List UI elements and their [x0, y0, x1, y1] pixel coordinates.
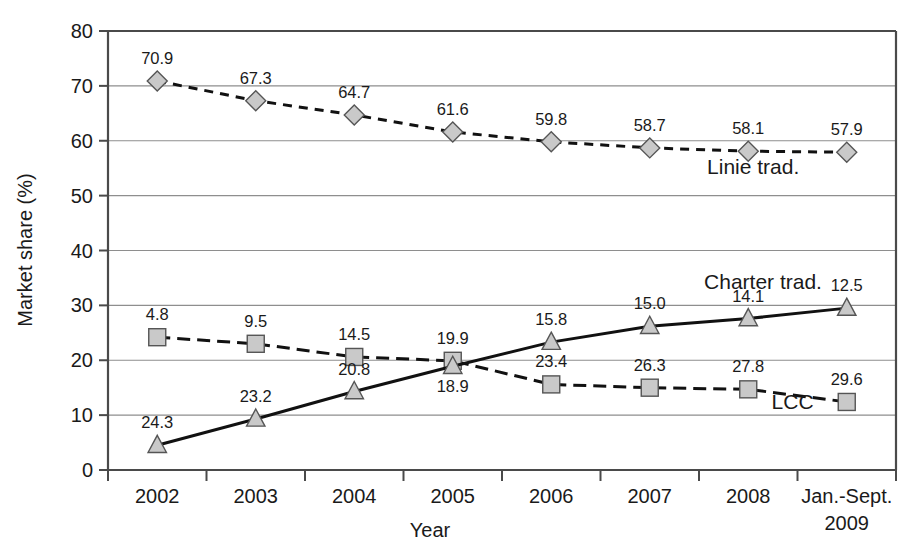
- series-annotation: Charter trad.: [704, 270, 822, 293]
- x-tick-label-line2: 2009: [825, 512, 870, 534]
- data-point-label: 4.8: [146, 305, 169, 323]
- data-point-label: 18.9: [437, 377, 469, 395]
- data-point-label: 12.5: [831, 276, 863, 294]
- data-point-label: 26.3: [634, 356, 666, 374]
- x-tick-label: 2005: [431, 485, 476, 507]
- x-tick-label: 2002: [135, 485, 180, 507]
- y-tick-label: 10: [71, 404, 93, 426]
- data-point-label: 27.8: [732, 357, 764, 375]
- chart-canvas: 01020304050607080 2002200320042005200620…: [0, 0, 922, 560]
- data-point-label: 67.3: [240, 69, 272, 87]
- data-point-label: 23.4: [535, 352, 567, 370]
- x-tick-label: 2004: [332, 485, 377, 507]
- y-tick-label: 20: [71, 349, 93, 371]
- data-point-label: 29.6: [831, 370, 863, 388]
- data-point-label: 23.2: [240, 387, 272, 405]
- data-point-label: 14.5: [338, 325, 370, 343]
- x-tick-label: 2003: [234, 485, 279, 507]
- series-annotation: LCC: [772, 390, 814, 413]
- data-point-marker: [641, 379, 658, 396]
- data-point-marker: [740, 381, 757, 398]
- data-point-label: 19.9: [437, 329, 469, 347]
- x-axis-title: Year: [410, 519, 451, 541]
- y-tick-label: 0: [82, 459, 93, 481]
- y-tick-label: 80: [71, 20, 93, 42]
- x-tick-label: 2007: [628, 485, 673, 507]
- x-tick-label: Jan.-Sept.: [801, 485, 892, 507]
- y-tick-label: 60: [71, 130, 93, 152]
- data-point-label: 59.8: [535, 110, 567, 128]
- y-tick-label: 40: [71, 240, 93, 262]
- x-tick-label: 2008: [726, 485, 771, 507]
- y-tick-label: 70: [71, 75, 93, 97]
- y-axis-title: Market share (%): [14, 173, 36, 326]
- data-point-label: 58.7: [634, 116, 666, 134]
- market-share-chart: 01020304050607080 2002200320042005200620…: [0, 0, 922, 560]
- data-point-label: 15.0: [634, 294, 666, 312]
- data-point-label: 15.8: [535, 310, 567, 328]
- y-tick-label: 30: [71, 294, 93, 316]
- data-point-label: 24.3: [141, 413, 173, 431]
- data-point-label: 64.7: [338, 83, 370, 101]
- data-point-label: 61.6: [437, 100, 469, 118]
- data-point-label: 58.1: [732, 119, 764, 137]
- data-point-label: 70.9: [141, 49, 173, 67]
- series-annotation: Linie trad.: [707, 155, 799, 178]
- data-point-label: 9.5: [244, 312, 267, 330]
- data-point-marker: [247, 335, 264, 352]
- data-point-marker: [838, 393, 855, 410]
- y-tick-label: 50: [71, 185, 93, 207]
- data-point-marker: [149, 329, 166, 346]
- data-point-marker: [543, 376, 560, 393]
- data-point-label: 20.8: [338, 360, 370, 378]
- data-point-label: 57.9: [831, 120, 863, 138]
- x-tick-label: 2006: [529, 485, 574, 507]
